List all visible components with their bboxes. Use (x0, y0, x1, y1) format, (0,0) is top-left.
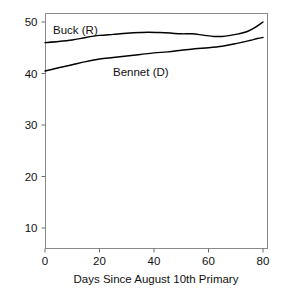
x-axis-title: Days Since August 10th Primary (74, 273, 239, 285)
x-tick-label: 60 (202, 255, 215, 267)
y-tick-label: 20 (25, 171, 38, 183)
series-label-bennet: Bennet (D) (113, 66, 169, 78)
x-axis-tick-labels: 020406080 (42, 255, 270, 267)
x-tick-label: 0 (42, 255, 48, 267)
y-tick-label: 30 (25, 119, 38, 131)
y-tick-label: 10 (25, 222, 38, 234)
x-tick-label: 40 (148, 255, 161, 267)
y-tick-label: 50 (25, 16, 38, 28)
y-axis-tick-labels: 1020304050 (25, 16, 38, 234)
series-label-buck: Buck (R) (53, 24, 98, 36)
y-axis-ticks (42, 22, 46, 228)
line-chart: 1020304050 020406080 Days Since August 1… (0, 0, 285, 301)
plot-frame (46, 14, 268, 249)
x-axis-ticks (45, 249, 263, 253)
chart-canvas: 1020304050 020406080 Days Since August 1… (0, 0, 285, 301)
x-tick-label: 20 (93, 255, 106, 267)
y-tick-label: 40 (25, 68, 38, 80)
x-tick-label: 80 (257, 255, 270, 267)
